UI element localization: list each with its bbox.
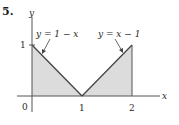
curve-label-right: y = x − 1 bbox=[97, 29, 140, 39]
x-axis-label: x bbox=[162, 91, 167, 101]
curve-label-left: y = 1 − x bbox=[35, 29, 78, 39]
problem-number: 5. bbox=[2, 5, 13, 18]
diagram: 5. y x 1 0 1 2 y = 1 − x y = x − 1 bbox=[0, 0, 179, 125]
y-tick-label-1: 1 bbox=[20, 40, 26, 50]
origin-label: 0 bbox=[22, 102, 28, 112]
x-tick-label-1: 1 bbox=[79, 103, 85, 113]
y-axis-label: y bbox=[28, 8, 35, 18]
x-tick-label-2: 2 bbox=[129, 103, 135, 113]
